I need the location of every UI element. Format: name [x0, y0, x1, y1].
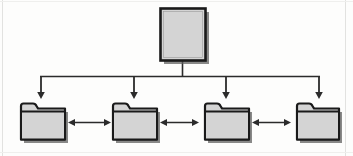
root-node-body [161, 9, 206, 61]
folder-node-1[interactable] [21, 104, 68, 144]
peer-link-3-4 [252, 119, 291, 126]
drop-connector-1 [37, 76, 45, 99]
folder-2-front [113, 112, 157, 140]
folder-node-4[interactable] [297, 104, 342, 144]
folder-3-front [205, 112, 249, 140]
root-node-document[interactable] [161, 9, 210, 65]
connector-group [37, 60, 323, 99]
drop-connector-4 [315, 76, 323, 99]
peer-link-2-3 [160, 119, 199, 126]
drop-connector-2 [130, 76, 138, 99]
diagram-svg-layer [0, 0, 353, 156]
diagram-canvas [0, 0, 353, 156]
peer-link-1-2 [68, 119, 111, 126]
folder-node-2[interactable] [113, 104, 160, 144]
folder-1-front [21, 112, 65, 140]
folder-4-front [297, 112, 339, 140]
folder-node-3[interactable] [205, 104, 252, 144]
drop-connector-3 [222, 76, 230, 99]
